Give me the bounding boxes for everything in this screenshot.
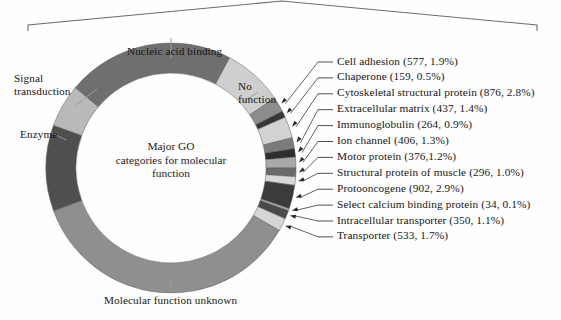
leader-label-immunoglobulin: Immunoglobulin (264, 0.9%) — [337, 118, 472, 130]
no-function-line-2: function — [238, 93, 276, 105]
leader-arrowhead-structural-protein-of-muscle — [298, 177, 305, 183]
leader-line-structural-protein-of-muscle — [302, 173, 318, 181]
leader-arrowhead-immunoglobulin — [296, 147, 303, 154]
chart-center-label: Major GO categories for molecular functi… — [96, 140, 246, 181]
leader-line-select-calcium-binding-protein — [296, 205, 318, 210]
leader-arrowhead-ion-channel — [297, 157, 304, 164]
slice-label-nucleic-acid-binding: Nucleic acid binding — [127, 45, 222, 57]
leader-label-select-calcium-binding-protein: Select calcium binding protein (34, 0.1%… — [337, 198, 530, 210]
leader-arrowhead-protooncogene — [295, 194, 302, 200]
leader-line-cytoskeletal-structural-protein — [296, 94, 318, 127]
leader-line-extracellular-matrix — [300, 110, 318, 143]
leader-line-protooncogene — [299, 189, 318, 197]
leader-label-protooncogene: Protooncogene (902, 2.9%) — [337, 182, 464, 194]
center-line-3: function — [96, 167, 246, 181]
leader-label-motor-protein: Motor protein (376,1.2%) — [337, 150, 456, 162]
signal-transduction-line-2: transduction — [14, 85, 71, 97]
top-bracket — [28, 1, 537, 31]
leader-line-transporter — [289, 226, 318, 237]
slice-label-no-function: No function — [238, 80, 298, 107]
leader-label-chaperone: Chaperone (159, 0.5%) — [337, 70, 445, 82]
leader-label-extracellular-matrix: Extracellular matrix (437, 1.4%) — [337, 102, 487, 114]
slice-label-molecular-function-unknown: Molecular function unknown — [104, 294, 237, 306]
leader-label-structural-protein-of-muscle: Structural protein of muscle (296, 1.0%) — [337, 166, 524, 178]
leader-arrowhead-motor-protein — [298, 167, 305, 174]
leader-arrowhead-intracellular-transporter — [289, 214, 296, 219]
center-line-2: categories for molecular — [96, 154, 246, 168]
leader-label-intracellular-transporter: Intracellular transporter (350, 1.1%) — [337, 214, 504, 226]
leader-arrowhead-chaperone — [285, 108, 292, 115]
donut-slice-molecular-function-unknown[interactable] — [54, 200, 280, 293]
leader-label-cytoskeletal-structural-protein: Cytoskeletal structural protein (876, 2.… — [337, 86, 535, 98]
leader-line-intracellular-transporter — [294, 216, 318, 221]
leader-label-transporter: Transporter (533, 1.7%) — [337, 229, 448, 241]
leader-label-cell-adhesion: Cell adhesion (577, 1.9%) — [337, 55, 458, 67]
donut-chart-svg — [0, 0, 561, 320]
slice-label-enzyme: Enzyme — [20, 128, 57, 140]
center-line-1: Major GO — [96, 140, 246, 154]
leader-label-ion-channel: Ion channel (406, 1.3%) — [337, 134, 449, 146]
slice-label-signal-transduction: Signal transduction — [14, 72, 109, 99]
no-function-line-1: No — [238, 80, 252, 92]
signal-transduction-line-1: Signal — [14, 72, 43, 84]
leader-arrowhead-transporter — [285, 224, 292, 230]
leader-arrowhead-select-calcium-binding-protein — [291, 207, 298, 212]
leader-arrowhead-extracellular-matrix — [295, 137, 302, 144]
leader-line-immunoglobulin — [302, 126, 318, 153]
figure-canvas: Major GO categories for molecular functi… — [0, 0, 561, 320]
